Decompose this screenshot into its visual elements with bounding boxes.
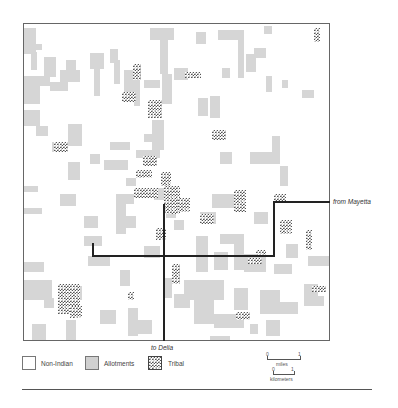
allotment-parcel: [24, 28, 36, 54]
allotment-parcel: [100, 310, 116, 324]
allotment-parcel: [94, 68, 100, 96]
allotment-parcel: [38, 76, 50, 86]
allotment-parcel: [88, 256, 110, 266]
legend-swatch-allotments: [85, 356, 99, 370]
legend-swatch-tribal: [148, 356, 162, 370]
allotment-parcel: [24, 280, 52, 300]
allotment-parcel: [36, 126, 48, 136]
allotment-parcel: [210, 336, 230, 341]
allotment-parcel: [302, 90, 314, 98]
allotment-parcel: [280, 166, 288, 186]
allotment-parcel: [120, 270, 130, 286]
allotment-parcel: [84, 216, 98, 228]
scale-miles-bar: [267, 356, 301, 360]
allotment-parcel: [222, 68, 230, 78]
tribal-parcel: [134, 188, 158, 198]
tribal-parcel: [200, 214, 214, 224]
tribal-parcel: [143, 156, 157, 166]
legend-label-non-indian: Non-Indian: [41, 360, 73, 367]
road-segment: [92, 243, 94, 257]
allotment-parcel: [144, 80, 160, 88]
allotment-parcel: [260, 290, 280, 314]
allotment-parcel: [196, 32, 206, 44]
reservation-map: [23, 23, 330, 341]
bottom-rule: [22, 389, 372, 390]
allotment-parcel: [238, 34, 244, 78]
allotment-parcel: [152, 120, 164, 150]
allotment-parcel: [160, 36, 168, 74]
allotment-parcel: [272, 136, 280, 156]
allotment-parcel: [110, 142, 130, 150]
scale-km-unit: kilometers: [270, 376, 293, 382]
tribal-parcel: [122, 92, 136, 102]
allotment-parcel: [128, 308, 138, 336]
tribal-parcel: [54, 142, 68, 152]
allotment-parcel: [198, 98, 208, 116]
legend-label-tribal: Tribal: [168, 360, 184, 367]
allotment-parcel: [286, 244, 298, 258]
allotment-parcel: [210, 96, 220, 118]
allotment-parcel: [24, 208, 42, 214]
tribal-parcel: [212, 130, 226, 140]
allotment-parcel: [308, 256, 330, 266]
allotment-parcel: [162, 74, 172, 104]
allotment-parcel: [44, 57, 56, 77]
allotment-parcel: [174, 220, 184, 230]
road-segment: [273, 201, 275, 257]
tribal-parcel: [234, 190, 246, 212]
tribal-parcel: [248, 258, 262, 264]
allotment-parcel: [66, 60, 76, 76]
tribal-parcel: [128, 292, 134, 300]
allotment-parcel: [254, 212, 268, 224]
tribal-parcel: [178, 198, 190, 212]
allotment-parcel: [274, 264, 292, 274]
label-from-mayetta: from Mayetta: [333, 198, 371, 205]
allotment-parcel: [66, 320, 76, 340]
legend-swatch-non-indian: [22, 356, 36, 370]
label-to-delia: to Delia: [151, 344, 173, 351]
allotment-parcel: [264, 26, 272, 34]
allotment-parcel: [36, 44, 42, 50]
allotment-parcel: [24, 186, 38, 192]
allotment-parcel: [24, 110, 40, 126]
tribal-parcel: [306, 230, 312, 250]
road-segment: [92, 255, 275, 257]
allotment-parcel: [212, 194, 236, 208]
tribal-parcel: [133, 64, 141, 80]
allotment-parcel: [32, 324, 46, 341]
allotment-parcel: [50, 82, 68, 91]
scale-km-bar: [273, 371, 295, 375]
allotment-parcel: [90, 154, 100, 164]
allotment-parcel: [104, 160, 128, 170]
allotment-parcel: [282, 80, 288, 88]
allotment-parcel: [266, 320, 280, 336]
road-segment: [273, 201, 330, 203]
allotment-parcel: [68, 124, 82, 146]
allotment-parcel: [194, 284, 214, 324]
allotment-parcel: [196, 236, 208, 272]
tribal-parcel: [185, 72, 201, 78]
allotment-parcel: [266, 76, 272, 92]
allotment-parcel: [116, 194, 126, 234]
legend-label-allotments: Allotments: [104, 360, 134, 367]
allotment-parcel: [68, 162, 80, 180]
allotment-parcel: [138, 320, 152, 334]
tribal-parcel: [172, 264, 180, 284]
allotment-parcel: [280, 302, 298, 314]
allotment-parcel: [44, 298, 54, 308]
allotment-parcel: [220, 152, 232, 164]
allotment-parcel: [60, 194, 76, 206]
allotment-parcel: [234, 244, 244, 270]
tribal-parcel: [236, 312, 250, 320]
allotment-parcel: [220, 234, 244, 244]
allotment-parcel: [126, 178, 136, 186]
allotment-parcel: [250, 324, 258, 334]
tribal-parcel: [136, 170, 152, 178]
tribal-parcel: [148, 100, 162, 118]
allotment-parcel: [120, 216, 136, 228]
tribal-parcel: [161, 172, 171, 186]
allotment-parcel: [90, 53, 104, 69]
allotment-parcel: [24, 262, 44, 272]
tribal-parcel: [314, 28, 320, 42]
allotment-parcel: [31, 52, 37, 70]
